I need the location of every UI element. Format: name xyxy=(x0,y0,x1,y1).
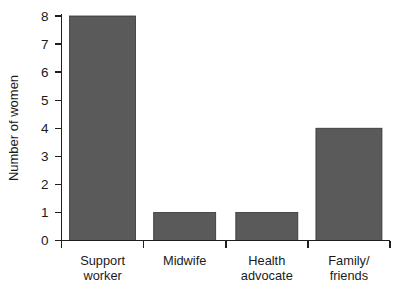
y-tick-label-8: 8 xyxy=(41,9,49,24)
y-tick-label-2: 2 xyxy=(41,177,49,192)
y-axis-title: Number of women xyxy=(6,75,21,181)
y-tick-label-6: 6 xyxy=(41,65,49,80)
y-tick-label-3: 3 xyxy=(41,149,49,164)
y-tick-label-1: 1 xyxy=(41,205,49,220)
chart-canvas: 012345678 SupportworkerMidwifeHealthadvo… xyxy=(0,0,405,294)
bar-4 xyxy=(316,128,382,240)
bar-1 xyxy=(70,16,136,241)
x-tick-label-3: Healthadvocate xyxy=(241,253,293,283)
y-axis-tick-labels: 012345678 xyxy=(41,9,49,249)
bar-chart-figure: 012345678 SupportworkerMidwifeHealthadvo… xyxy=(0,0,405,294)
bar-3 xyxy=(236,212,298,240)
bar-2 xyxy=(154,212,216,240)
y-tick-label-0: 0 xyxy=(41,233,49,248)
x-tick-label-1: Supportworker xyxy=(80,253,125,283)
y-tick-label-7: 7 xyxy=(41,37,49,52)
x-tick-label-2: Midwife xyxy=(163,253,206,268)
y-tick-label-4: 4 xyxy=(41,121,49,136)
y-tick-label-5: 5 xyxy=(41,93,49,108)
x-tick-label-4: Family/friends xyxy=(328,253,370,283)
